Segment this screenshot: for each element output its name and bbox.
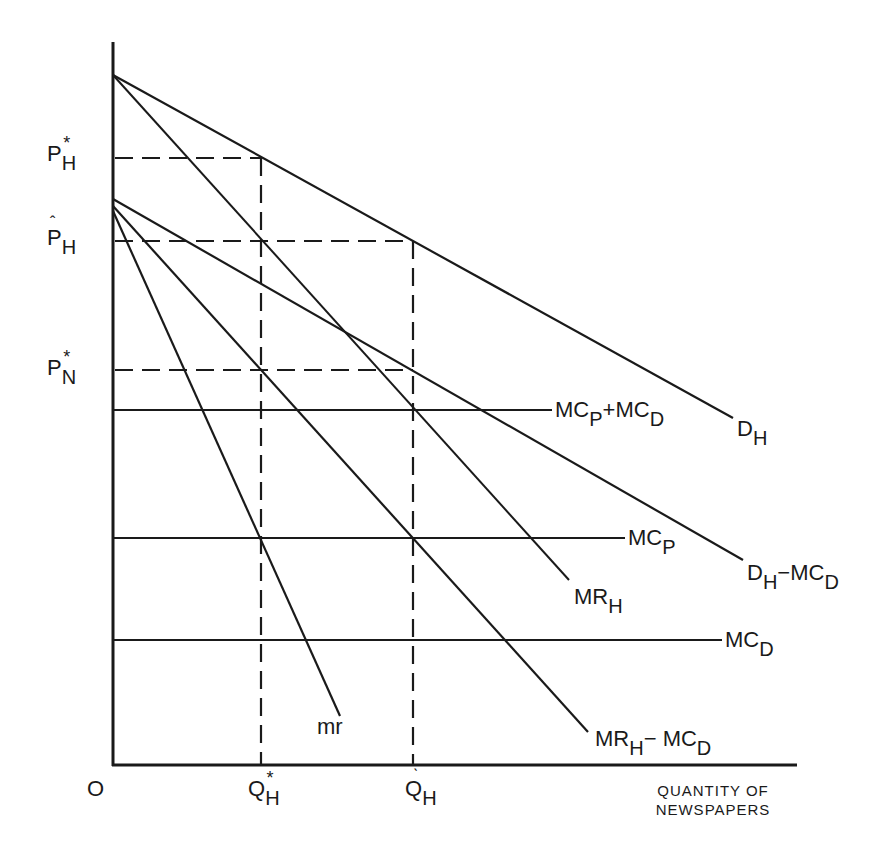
label-p-star-h: PH* bbox=[47, 143, 70, 165]
curve-d-h-minus-mc-d bbox=[113, 199, 743, 560]
label-p-hat-h: ˆPH bbox=[47, 227, 76, 249]
curve-d-h bbox=[113, 75, 733, 418]
curve-mr-h bbox=[113, 75, 569, 580]
label-d-h: DH bbox=[737, 418, 767, 440]
label-q-hat-h: ˋQH bbox=[405, 778, 437, 800]
x-axis-title: QUANTITY OF NEWSPAPERS bbox=[628, 781, 798, 819]
label-mc-d: MCD bbox=[725, 629, 774, 651]
label-d-h-minus-mc-d: DH−MCD bbox=[747, 562, 839, 584]
label-origin: O bbox=[87, 778, 104, 800]
label-mc-p-plus-mc-d: MCP+MCD bbox=[555, 399, 664, 421]
label-q-star-h: QH* bbox=[248, 778, 274, 800]
label-p-star-n: PN* bbox=[47, 357, 70, 379]
curve-mr-h-minus-mc-d bbox=[113, 206, 588, 732]
label-mr-h: MRH bbox=[574, 586, 623, 608]
label-mr-h-minus-mc-d: MRH− MCD bbox=[595, 728, 711, 750]
label-mc-p: MCP bbox=[628, 527, 676, 549]
label-mr: mr bbox=[317, 716, 343, 738]
